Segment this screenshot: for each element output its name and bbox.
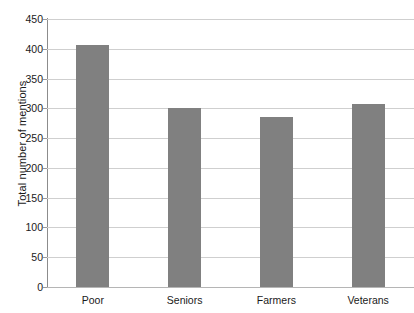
y-axis-tick-label: 200 [18,162,43,174]
y-axis-tick-mark [43,287,47,288]
bar [352,104,385,287]
x-axis-tick-label: Veterans [323,293,413,307]
y-axis-tick-label: 450 [18,13,43,25]
y-axis-tick-label: 100 [18,221,43,233]
y-axis-tick-mark [43,79,47,80]
y-axis-tick-label: 50 [18,251,43,263]
y-axis-tick-mark [43,49,47,50]
y-axis-tick-label: 300 [18,102,43,114]
bar [168,108,201,287]
x-axis-tick-label: Seniors [140,293,230,307]
y-axis-tick-mark [43,198,47,199]
y-axis-tick-label: 350 [18,73,43,85]
y-axis-tick-mark [43,108,47,109]
gridline [47,19,414,20]
y-axis-tick-mark [43,19,47,20]
bar [76,45,109,287]
y-axis-tick-label: 250 [18,132,43,144]
y-axis-tick-mark [43,227,47,228]
y-axis-tick-mark [43,138,47,139]
x-axis-tick-label: Farmers [231,293,321,307]
y-axis-tick-label: 150 [18,192,43,204]
y-axis-tick-label: 0 [18,281,43,293]
y-axis-tick-label: 400 [18,43,43,55]
plot-area [47,19,414,287]
bar-chart: Total number of mentions 050100150200250… [0,0,414,313]
y-axis-tick-mark [43,257,47,258]
y-axis-tick-labels: 050100150200250300350400450 [18,0,43,313]
x-axis-line [47,287,414,288]
bar [260,117,293,287]
x-axis-tick-label: Poor [48,293,138,307]
y-axis-tick-mark [43,168,47,169]
